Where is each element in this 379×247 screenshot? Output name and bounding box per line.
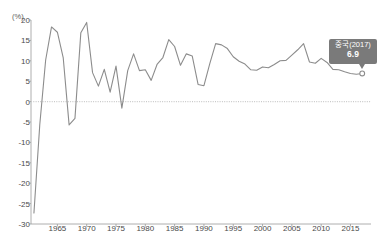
x-axis-tick-label: 1980 [136, 224, 154, 233]
x-axis-tick-label: 2015 [342, 224, 360, 233]
x-axis-tick-label: 1970 [78, 224, 96, 233]
x-axis-tick-label: 1995 [224, 224, 242, 233]
x-axis-tick-label: 1985 [166, 224, 184, 233]
x-axis-tick-label: 1975 [107, 224, 125, 233]
annotation-pointer [359, 64, 365, 69]
annotation-callout: 중국(2017) 6.9 [329, 39, 377, 64]
x-axis-tick-label: 2005 [283, 224, 301, 233]
series-line-china [34, 22, 362, 213]
x-axis-tick-label: 1990 [195, 224, 213, 233]
plot-area [0, 0, 379, 247]
annotation-value: 6.9 [332, 50, 374, 60]
end-point-marker [360, 71, 365, 76]
x-axis-tick-label: 2010 [312, 224, 330, 233]
x-axis-tick-label: 1965 [48, 224, 66, 233]
x-axis-tick-label: 2000 [254, 224, 272, 233]
gdp-growth-line-chart: (%) 20151050-5-10-15-20-25-30 중국(2017) 6… [0, 0, 379, 247]
x-axis-tick-labels: 1965197019751980198519901995200020052010… [0, 224, 379, 240]
